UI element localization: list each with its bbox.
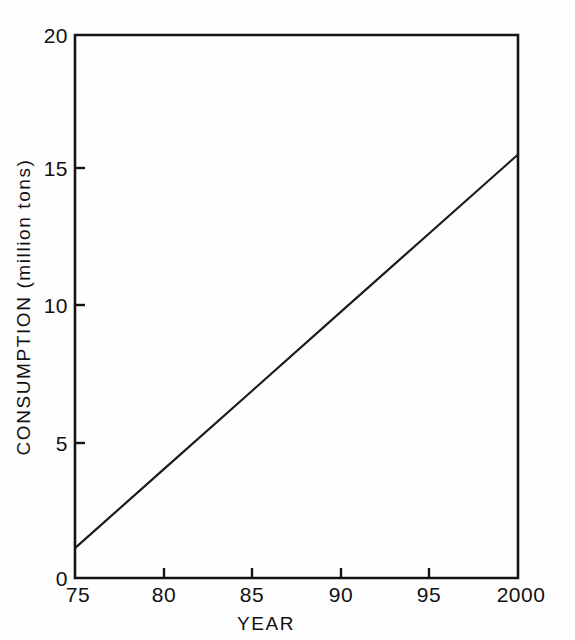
y-tick-label-15: 15 [44,157,68,180]
y-axis-title: CONSUMPTION (million tons) [13,158,34,455]
y-tick-label-20: 20 [44,24,68,47]
x-tick-label-85: 85 [240,583,264,606]
x-axis-ticks [164,568,429,578]
y-tick-label-10: 10 [44,294,68,317]
x-tick-label-95: 95 [417,583,441,606]
x-tick-label-90: 90 [329,583,353,606]
x-tick-label-2000: 2000 [497,583,546,606]
consumption-trend-line [75,155,518,549]
x-axis-tick-labels: 75 80 85 90 95 2000 [66,583,546,606]
line-chart: 20 15 10 5 0 75 80 85 90 95 2000 YEAR CO… [0,0,575,640]
x-tick-label-75: 75 [66,583,90,606]
y-axis-ticks [75,168,85,443]
y-tick-label-5: 5 [56,432,68,455]
y-axis-tick-labels: 20 15 10 5 0 [44,24,68,590]
chart-page: 20 15 10 5 0 75 80 85 90 95 2000 YEAR CO… [0,0,575,640]
plot-frame [75,35,518,578]
x-axis-title: YEAR [237,613,295,634]
x-tick-label-80: 80 [152,583,176,606]
